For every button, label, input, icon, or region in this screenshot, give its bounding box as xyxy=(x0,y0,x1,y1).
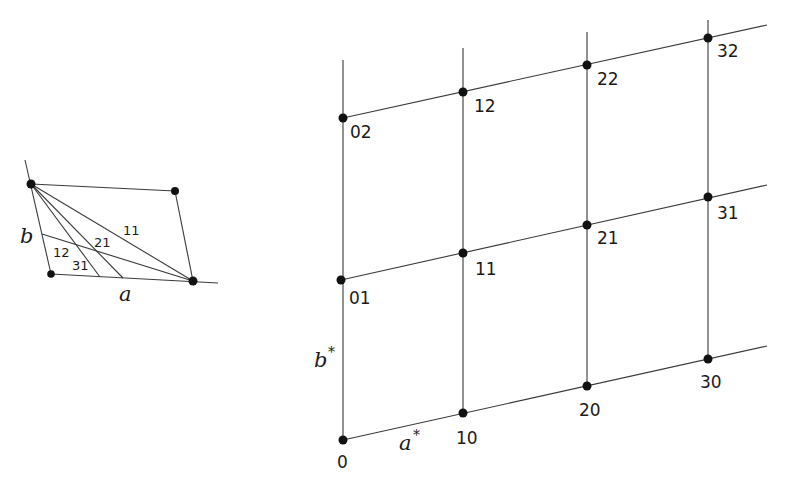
point-label-10: 10 xyxy=(456,428,478,448)
lattice-point xyxy=(27,180,36,189)
axis-b-star-label: b xyxy=(314,348,327,372)
point-label-02: 02 xyxy=(350,122,372,142)
reciprocal-point-02 xyxy=(339,114,348,123)
row-line-1 xyxy=(341,185,767,280)
lattice-diagram: b a 11 21 12 31 0 10 20 30 xyxy=(0,0,788,483)
point-label-30: 30 xyxy=(700,372,722,392)
reciprocal-point-22 xyxy=(583,61,592,70)
axis-b-label: b xyxy=(20,224,33,248)
reciprocal-point-12 xyxy=(459,88,468,97)
point-label-32: 32 xyxy=(717,41,739,61)
b-axis-line xyxy=(25,160,51,274)
reciprocal-point-10 xyxy=(459,409,468,418)
point-label-31: 31 xyxy=(717,203,739,223)
reciprocal-point-0 xyxy=(339,436,348,445)
reciprocal-point-20 xyxy=(583,382,592,391)
lattice-point xyxy=(189,277,198,286)
plane-label-11: 11 xyxy=(123,223,140,238)
point-label-12: 12 xyxy=(474,96,496,116)
row-line-2 xyxy=(343,25,767,118)
reciprocal-point-01 xyxy=(337,276,346,285)
reciprocal-point-21 xyxy=(583,221,592,230)
reciprocal-point-32 xyxy=(704,34,713,43)
reciprocal-point-11 xyxy=(459,249,468,258)
point-label-21: 21 xyxy=(597,228,619,248)
plane-label-21: 21 xyxy=(94,235,111,250)
cell-top-edge xyxy=(31,184,175,191)
point-label-11: 11 xyxy=(475,259,497,279)
axis-a-label: a xyxy=(119,282,132,306)
b-star-superscript: * xyxy=(328,344,335,360)
reciprocal-point-30 xyxy=(704,355,713,364)
row-line-0 xyxy=(343,346,767,440)
direct-cell: b a 11 21 12 31 xyxy=(20,160,218,306)
plane-label-31: 31 xyxy=(72,258,89,273)
point-label-22: 22 xyxy=(597,69,619,89)
lattice-point xyxy=(171,187,179,195)
lattice-point xyxy=(47,270,55,278)
reciprocal-lattice: 0 10 20 30 01 11 21 31 02 12 22 32 b * a… xyxy=(314,20,767,472)
point-label-01: 01 xyxy=(349,288,371,308)
plane-label-12: 12 xyxy=(53,245,70,260)
point-label-20: 20 xyxy=(579,400,601,420)
point-label-0: 0 xyxy=(337,452,348,472)
a-star-superscript: * xyxy=(413,427,420,443)
reciprocal-point-31 xyxy=(704,193,713,202)
cell-right-edge xyxy=(175,191,193,281)
axis-a-star-label: a xyxy=(399,431,412,455)
